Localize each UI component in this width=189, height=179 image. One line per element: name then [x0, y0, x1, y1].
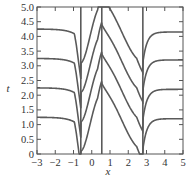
y-tick-label: 5.0 — [21, 2, 34, 13]
x-tick-label: 2 — [126, 157, 131, 168]
y-tick-label: 4.5 — [21, 16, 34, 27]
y-tick-label: 0 — [29, 149, 34, 160]
y-tick-label: 3.5 — [21, 46, 34, 57]
y-tick-label: 1.5 — [21, 104, 34, 115]
y-tick-label: 4.0 — [21, 31, 34, 42]
y-tick-label: 3.0 — [21, 60, 34, 71]
y-tick-label: 1.0 — [21, 119, 34, 130]
y-tick-label: 2.5 — [21, 75, 34, 86]
x-tick-label: 3 — [144, 157, 149, 168]
x-tick-label: 4 — [162, 157, 168, 168]
x-tick-label: −2 — [50, 157, 61, 168]
x-axis-title: x — [105, 165, 111, 177]
x-tick-label: −1 — [68, 157, 79, 168]
chart: −3−2−1012345 00.51.01.52.02.53.03.54.04.… — [0, 0, 189, 179]
y-tick-label: 0.5 — [21, 134, 34, 145]
x-tick-label: 5 — [180, 157, 185, 168]
x-tick-label: 0 — [89, 157, 94, 168]
y-tick-label: 2.0 — [21, 90, 34, 101]
